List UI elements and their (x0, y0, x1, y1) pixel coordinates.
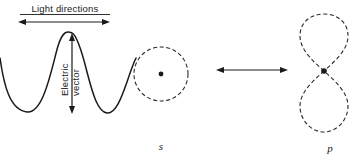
p-orbital-nucleus-dot (321, 68, 327, 74)
electric-vector-label-line2: vector (70, 69, 81, 96)
transition-arrow (216, 67, 288, 73)
p-orbital-upper-lobe (300, 14, 348, 71)
light-directions-arrow (18, 19, 110, 25)
electric-vector-label-line1: Electric (59, 63, 70, 96)
light-directions-label: Light directions (31, 3, 98, 14)
diagram-canvas: Electric vector Light directions s p (0, 0, 360, 164)
p-orbital-lower-lobe (300, 71, 348, 132)
s-orbital-nucleus-dot (159, 72, 164, 77)
p-orbital-label: p (326, 142, 333, 154)
s-orbital-label: s (159, 140, 163, 152)
orbital-light-diagram: Electric vector Light directions s p (0, 0, 360, 164)
